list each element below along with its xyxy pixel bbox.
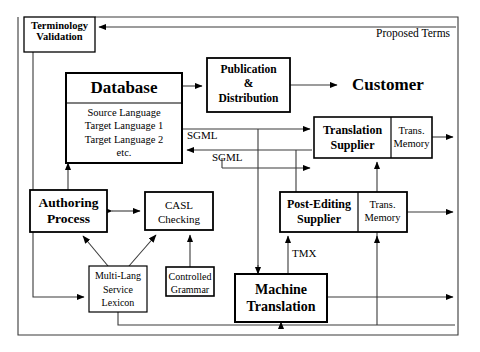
node-database[interactable] [66, 73, 182, 163]
node-terminology-validation[interactable] [24, 17, 95, 52]
sgml-lower-label: SGML [212, 151, 243, 163]
diagram-vector-layer [0, 0, 480, 352]
diagram-canvas: Terminology Validation Database Source L… [0, 0, 480, 352]
sgml-upper-label: SGML [187, 129, 218, 141]
customer-label: Customer [352, 75, 424, 95]
node-controlled-grammar[interactable] [166, 267, 214, 296]
proposed-terms-label: Proposed Terms [376, 27, 450, 39]
tmx-label: TMX [292, 247, 316, 259]
node-post-editing-supplier[interactable] [280, 192, 407, 232]
node-multi-lang-service-lexicon[interactable] [89, 266, 147, 312]
node-casl-checking[interactable] [145, 192, 213, 230]
node-publication-distribution[interactable] [207, 58, 290, 112]
node-translation-supplier[interactable] [314, 117, 432, 158]
node-machine-translation[interactable] [235, 274, 327, 322]
node-authoring-process[interactable] [30, 190, 107, 232]
